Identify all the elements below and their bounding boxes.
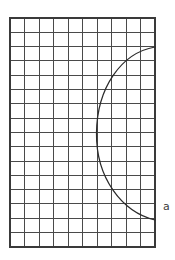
figure-background xyxy=(0,0,175,260)
curve-label-a: a xyxy=(163,200,170,213)
figure-root: a xyxy=(0,0,175,260)
figure-canvas: a xyxy=(0,0,175,260)
